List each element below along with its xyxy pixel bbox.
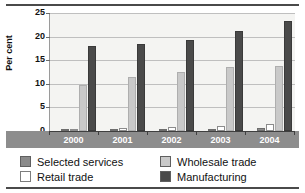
y-axis-tick-labels: 0510152025 xyxy=(24,13,45,131)
bar-group xyxy=(246,13,295,131)
y-axis-tick-label: 5 xyxy=(40,102,45,111)
x-axis-tick xyxy=(196,131,197,135)
top-rule xyxy=(6,4,299,6)
bar xyxy=(177,72,185,131)
bar-group xyxy=(148,13,197,131)
bar xyxy=(235,31,243,131)
x-axis-tick xyxy=(49,131,50,135)
x-axis-tick-label: 2000 xyxy=(54,135,94,146)
legend-label: Wholesale trade xyxy=(177,156,257,168)
x-axis-tick-label: 2003 xyxy=(201,135,241,146)
y-axis-tick-label: 25 xyxy=(35,8,45,17)
y-axis-tick-label: 15 xyxy=(35,55,45,64)
legend-swatch-icon xyxy=(160,171,171,182)
y-axis-tick-label: 10 xyxy=(35,79,45,88)
bar xyxy=(88,46,96,131)
legend-swatch-icon xyxy=(20,156,31,167)
x-axis-tick-label: 2002 xyxy=(152,135,192,146)
legend-item[interactable]: Retail trade xyxy=(20,170,93,183)
bar xyxy=(275,66,283,131)
x-axis-tick xyxy=(245,131,246,135)
bottom-rule xyxy=(6,187,299,189)
legend-swatch-icon xyxy=(20,171,31,182)
y-axis-tick-label: 20 xyxy=(35,32,45,41)
legend-item[interactable]: Manufacturing xyxy=(160,170,247,183)
y-axis-label: Per cent xyxy=(4,28,14,78)
x-axis-tick-label: 2004 xyxy=(250,135,290,146)
legend-item[interactable]: Wholesale trade xyxy=(160,155,257,168)
x-axis-tick xyxy=(147,131,148,135)
bar xyxy=(266,124,274,131)
plot-area xyxy=(49,13,295,131)
legend-item[interactable]: Selected services xyxy=(20,155,123,168)
x-axis-tick xyxy=(98,131,99,135)
legend-swatch-icon xyxy=(160,156,171,167)
bar-chart-figure: Per cent 0510152025 Selected servicesWho… xyxy=(0,0,305,193)
chart-legend: Selected servicesWholesale tradeRetail t… xyxy=(20,155,290,185)
bar-group xyxy=(99,13,148,131)
bar xyxy=(186,40,194,131)
bar xyxy=(79,85,87,131)
x-axis-tick xyxy=(294,131,295,135)
bar-group xyxy=(50,13,99,131)
legend-label: Retail trade xyxy=(37,171,93,183)
bar xyxy=(137,44,145,131)
x-axis-line xyxy=(49,131,295,132)
x-axis-tick-label: 2001 xyxy=(103,135,143,146)
legend-label: Selected services xyxy=(37,156,123,168)
bar-group xyxy=(197,13,246,131)
legend-label: Manufacturing xyxy=(177,171,247,183)
bar xyxy=(284,21,292,131)
bar xyxy=(128,77,136,131)
bar xyxy=(226,67,234,131)
